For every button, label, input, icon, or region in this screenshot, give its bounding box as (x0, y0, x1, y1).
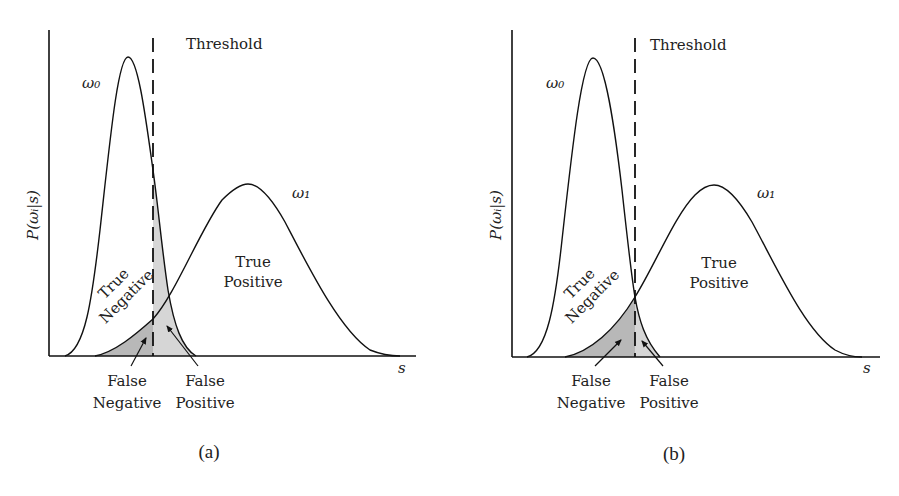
caption-a: (a) (198, 441, 219, 463)
false-positive-label: False Positive (639, 372, 698, 412)
true-negative-label: True Negative (549, 253, 623, 327)
svg-text:False: False (571, 372, 611, 390)
svg-text:Positive: Positive (175, 394, 234, 412)
x-axis-label: s (863, 359, 871, 377)
false-positive-label: False Positive (175, 372, 234, 412)
omega0-curve (65, 57, 196, 356)
false-negative-label: False Negative (93, 372, 162, 412)
threshold-label: Threshold (186, 35, 263, 53)
true-negative-label: True Negative (83, 253, 157, 327)
false-positive-area (153, 170, 196, 356)
panel-b: Threshold ω₀ ω₁ P(ωᵢ|s) s True Negative … (487, 30, 880, 465)
svg-text:Negative: Negative (93, 394, 162, 412)
svg-text:False: False (185, 372, 225, 390)
omega1-label: ω₁ (757, 184, 775, 202)
panel-a: Threshold ω₀ ω₁ P(ωᵢ|s) s True Negative … (24, 30, 416, 463)
omega1-label: ω₁ (292, 184, 310, 202)
omega0-curve (527, 58, 660, 357)
svg-text:Positive: Positive (223, 273, 282, 291)
omega0-label: ω₀ (546, 74, 564, 92)
svg-text:False: False (107, 372, 147, 390)
false-negative-label: False Negative (557, 372, 626, 412)
figure: Threshold ω₀ ω₁ P(ωᵢ|s) s True Negative … (0, 0, 899, 496)
svg-text:Negative: Negative (557, 394, 626, 412)
true-positive-label: True Positive (689, 254, 748, 292)
y-axis-label: P(ωᵢ|s) (487, 190, 505, 241)
false-negative-area (95, 319, 153, 356)
svg-text:Positive: Positive (639, 394, 698, 412)
threshold-label: Threshold (650, 36, 727, 54)
true-positive-label: True Positive (223, 253, 282, 291)
caption-b: (b) (663, 443, 685, 465)
svg-text:Positive: Positive (689, 274, 748, 292)
svg-text:True: True (701, 254, 737, 272)
svg-text:True: True (235, 253, 271, 271)
omega0-label: ω₀ (82, 74, 100, 92)
x-axis-label: s (398, 359, 406, 377)
y-axis-label: P(ωᵢ|s) (24, 190, 42, 241)
svg-text:False: False (649, 372, 689, 390)
